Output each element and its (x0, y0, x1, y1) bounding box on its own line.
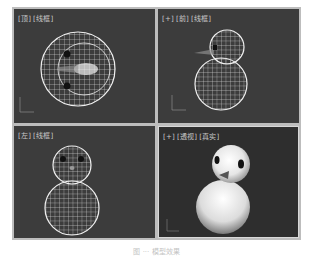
snowman-front-wireframe (158, 9, 299, 123)
viewport-left[interactable]: [左][线框] (14, 126, 155, 238)
snowman-realistic-render (159, 127, 299, 238)
axis-gizmo (20, 97, 34, 112)
axis-gizmo (172, 95, 186, 110)
snowman-top-wireframe (14, 9, 155, 123)
viewport-top[interactable]: [顶][线框] (14, 9, 155, 123)
viewport-front[interactable]: [+][前][线框] (158, 9, 299, 123)
viewport-layout: [顶][线框] [+][前][线框] (12, 7, 301, 240)
viewport-perspective[interactable]: [+][透视][真实] (158, 126, 299, 238)
figure-caption: 图 ··· 模型效果 (0, 246, 313, 256)
snowman-left-wireframe (14, 126, 155, 238)
axis-gizmo (167, 219, 179, 231)
